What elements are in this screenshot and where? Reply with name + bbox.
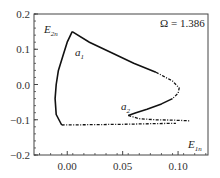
y-tick-label: 0.2 [16, 8, 30, 20]
series-line-a2-lower-tail [128, 116, 189, 121]
a1-label: a1 [75, 46, 84, 61]
chart: 0.20.10.0−0.1−0.2 0.000.050.10 Ω = 1.386… [0, 0, 220, 178]
series-line-upper-branch-dashed [156, 72, 179, 98]
e2n-label: E2n [43, 23, 58, 38]
y-tick-label: 0.1 [16, 43, 30, 55]
a2-label: a2 [121, 100, 131, 115]
omega-label: Ω = 1.386 [160, 17, 205, 29]
y-tick-label: 0.0 [16, 79, 30, 91]
x-tick-label: 0.05 [113, 160, 133, 172]
y-tick-label: −0.2 [10, 149, 30, 161]
ticks [34, 14, 206, 155]
x-tick-labels: 0.000.050.10 [58, 160, 189, 172]
x-tick-label: 0.00 [58, 160, 78, 172]
plot-frame [34, 14, 208, 155]
x-tick-label: 0.10 [168, 160, 188, 172]
series-line-upper-branch-solid [72, 32, 156, 73]
y-tick-labels: 0.20.10.0−0.1−0.2 [10, 8, 30, 161]
e1n-label: E1n [187, 138, 202, 153]
series-line-bottom-branch [62, 123, 176, 125]
series-line-to-a2 [128, 99, 172, 116]
y-tick-label: −0.1 [10, 114, 30, 126]
series-line-solid-branch [55, 32, 72, 125]
